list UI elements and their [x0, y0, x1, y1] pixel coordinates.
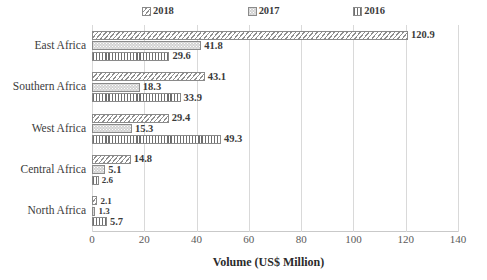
x-tick-label-60: 60: [243, 234, 254, 245]
bar-row: 5.1: [92, 165, 458, 174]
x-tick-label-100: 100: [345, 234, 362, 245]
bar-2018-southern-africa[interactable]: [92, 72, 205, 81]
category-axis: East AfricaSouthern AfricaWest AfricaCen…: [0, 25, 92, 232]
legend-swatch-2018: [142, 7, 151, 16]
bar-row: 41.8: [92, 41, 458, 50]
bar-2017-north-africa[interactable]: [92, 207, 95, 216]
category-label-north-africa: North Africa: [28, 206, 86, 218]
x-tick-label-0: 0: [89, 234, 95, 245]
x-axis-line: [92, 231, 458, 232]
bar-row: 29.4: [92, 114, 458, 123]
x-tick-label-80: 80: [296, 234, 307, 245]
legend-label-2018: 2018: [153, 6, 174, 17]
legend-label-2017: 2017: [259, 6, 280, 17]
bar-2017-west-africa[interactable]: [92, 124, 132, 133]
x-tick-label-20: 20: [139, 234, 150, 245]
x-tick-label-40: 40: [191, 234, 202, 245]
bar-2016-southern-africa[interactable]: [92, 93, 181, 102]
bar-2016-central-africa[interactable]: [92, 176, 99, 185]
legend-swatch-2017: [248, 7, 257, 16]
bar-2016-north-africa[interactable]: [92, 217, 107, 226]
bar-row: 2.1: [92, 196, 458, 205]
bar-value-label: 41.8: [204, 40, 222, 51]
bar-value-label: 2.6: [102, 176, 113, 185]
category-label-west-africa: West Africa: [32, 123, 86, 135]
bar-row: 14.8: [92, 155, 458, 164]
plot-area: 120.941.829.643.118.333.929.415.349.314.…: [92, 25, 458, 232]
bar-2017-southern-africa[interactable]: [92, 83, 140, 92]
legend-label-2016: 2016: [364, 6, 385, 17]
legend-swatch-2016: [353, 7, 362, 16]
bar-2018-east-africa[interactable]: [92, 31, 408, 40]
gridline-140: [458, 25, 459, 232]
legend-item-2017[interactable]: 2017: [248, 6, 280, 17]
x-axis-title: Volume (US$ Million): [0, 255, 487, 270]
bar-value-label: 14.8: [134, 154, 152, 165]
bar-value-label: 5.7: [110, 217, 123, 228]
bar-2017-central-africa[interactable]: [92, 165, 105, 174]
bar-2016-west-africa[interactable]: [92, 135, 221, 144]
bar-value-label: 29.4: [172, 113, 190, 124]
bar-2016-east-africa[interactable]: [92, 52, 169, 61]
x-axis-ticks: 020406080100120140: [92, 234, 458, 250]
bar-value-label: 15.3: [135, 123, 153, 134]
bar-row: 33.9: [92, 93, 458, 102]
bar-value-label: 120.9: [411, 30, 435, 41]
category-label-southern-africa: Southern Africa: [13, 81, 86, 93]
category-label-central-africa: Central Africa: [21, 164, 86, 176]
legend-item-2018[interactable]: 2018: [142, 6, 174, 17]
bar-row: 49.3: [92, 135, 458, 144]
bar-value-label: 43.1: [208, 71, 226, 82]
bar-value-label: 1.3: [98, 207, 109, 216]
bar-2018-central-africa[interactable]: [92, 155, 131, 164]
bar-value-label: 29.6: [172, 51, 190, 62]
bar-value-label: 2.1: [100, 196, 111, 205]
bar-row: 18.3: [92, 83, 458, 92]
bar-value-label: 18.3: [143, 82, 161, 93]
bar-2018-west-africa[interactable]: [92, 114, 169, 123]
bar-value-label: 5.1: [108, 165, 121, 176]
bar-2018-north-africa[interactable]: [92, 196, 97, 205]
bar-row: 1.3: [92, 207, 458, 216]
legend-item-2016[interactable]: 2016: [353, 6, 385, 17]
bar-value-label: 33.9: [184, 92, 202, 103]
x-tick-label-120: 120: [397, 234, 414, 245]
x-tick-label-140: 140: [450, 234, 467, 245]
bar-row: 43.1: [92, 72, 458, 81]
bar-chart: 201820172016 East AfricaSouthern AfricaW…: [0, 0, 487, 280]
bar-2017-east-africa[interactable]: [92, 41, 201, 50]
bar-row: 15.3: [92, 124, 458, 133]
bar-row: 2.6: [92, 176, 458, 185]
bar-row: 5.7: [92, 217, 458, 226]
category-label-east-africa: East Africa: [35, 40, 86, 52]
bar-value-label: 49.3: [224, 134, 242, 145]
bar-row: 29.6: [92, 52, 458, 61]
bar-row: 120.9: [92, 31, 458, 40]
chart-legend: 201820172016: [0, 2, 487, 20]
